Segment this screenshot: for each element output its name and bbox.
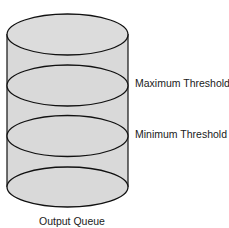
minimum-threshold-ellipse [7, 116, 128, 157]
minimum-threshold-label: Minimum Threshold [135, 129, 227, 140]
output-queue-cylinder [0, 0, 229, 228]
maximum-threshold-ellipse [7, 65, 128, 106]
output-queue-label: Output Queue [39, 216, 105, 227]
bottom-ellipse [7, 167, 128, 207]
maximum-threshold-label: Maximum Threshold [135, 78, 229, 89]
top-ellipse [7, 14, 128, 55]
